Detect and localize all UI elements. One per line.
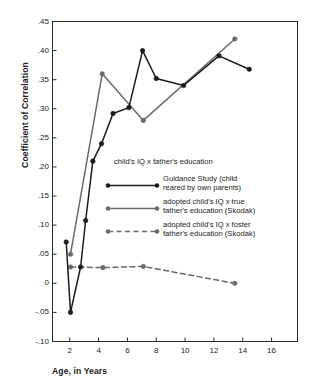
legend-title: child's IQ x father's education: [114, 157, 295, 166]
data-point-guidance-study: [83, 218, 88, 223]
data-point-guidance-study: [68, 310, 73, 315]
data-point-adopted-true-father: [100, 72, 105, 77]
legend-item-adopted-foster-father: adopted child's IQ x fosterfather's educ…: [105, 220, 295, 239]
data-point-adopted-foster-father: [68, 265, 73, 270]
data-point-guidance-study: [217, 54, 222, 59]
legend-label-line: adopted child's IQ x foster: [163, 220, 295, 229]
data-point-guidance-study: [127, 105, 132, 110]
legend-swatch-guidance-study: [105, 176, 160, 185]
data-point-adopted-foster-father: [141, 264, 146, 269]
legend-label-adopted-foster-father: adopted child's IQ x fosterfather's educ…: [163, 220, 295, 239]
data-point-guidance-study: [247, 67, 252, 72]
legend-swatch-adopted-foster-father: [105, 222, 160, 231]
legend-label-line: father's education (Skodak): [163, 206, 295, 215]
legend-entries: Guidance Study (childreared by own paren…: [105, 174, 295, 239]
data-point-guidance-study: [91, 159, 96, 164]
legend-label-guidance-study: Guidance Study (childreared by own paren…: [163, 174, 295, 193]
data-point-guidance-study: [154, 76, 159, 81]
legend-item-adopted-true-father: adopted child's IQ x truefather's educat…: [105, 197, 295, 216]
legend-label-line: adopted child's IQ x true: [163, 197, 295, 206]
chart-figure: Coefficient of Correlation Age, in Years…: [0, 0, 310, 388]
data-point-adopted-true-father: [233, 37, 238, 42]
data-point-guidance-study: [78, 265, 83, 270]
legend-label-line: father's education (Skodak): [163, 229, 295, 238]
legend-item-guidance-study: Guidance Study (childreared by own paren…: [105, 174, 295, 193]
series-line-adopted-foster-father: [71, 266, 235, 283]
data-point-guidance-study: [64, 240, 69, 245]
legend-label-adopted-true-father: adopted child's IQ x truefather's educat…: [163, 197, 295, 216]
data-point-adopted-true-father: [68, 252, 73, 257]
data-point-adopted-foster-father: [101, 265, 106, 270]
data-point-guidance-study: [111, 111, 116, 116]
data-point-guidance-study: [99, 141, 104, 146]
data-point-adopted-foster-father: [233, 281, 238, 286]
legend: child's IQ x father's education Guidance…: [105, 157, 295, 243]
legend-label-line: Guidance Study (child: [163, 174, 295, 183]
data-point-guidance-study: [181, 83, 186, 88]
legend-swatch-adopted-true-father: [105, 199, 160, 208]
data-point-guidance-study: [140, 48, 145, 53]
legend-label-line: reared by own parents): [163, 183, 295, 192]
data-point-adopted-true-father: [141, 118, 146, 123]
